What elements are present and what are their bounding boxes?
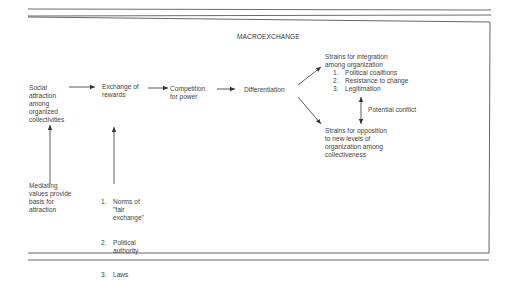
- item-number: 1.: [101, 198, 113, 222]
- strains-integration-heading: Strains for integration among organizati…: [325, 53, 388, 69]
- top-rule-2: [28, 15, 491, 16]
- node-mediating-values: Mediating values provide basis for attra…: [29, 182, 72, 214]
- list-item: 1. Norms of "fair exchange": [101, 198, 144, 222]
- node-strains-opposition: Strains for opposition to new levels of …: [325, 127, 387, 159]
- item-number: 2.: [101, 239, 113, 255]
- node-social-attraction: Social attraction among organized collec…: [29, 84, 64, 124]
- node-competition-for-power: Competition for power: [170, 85, 205, 101]
- diagram-title: MACROEXCHANGE: [237, 33, 300, 40]
- item-number: 1.: [333, 69, 345, 77]
- list-item: 2. Resistance to change: [333, 77, 408, 85]
- item-number: 3.: [101, 271, 113, 279]
- frame-box: [28, 17, 490, 253]
- item-text: Political authority: [113, 239, 138, 255]
- item-text: Resistance to change: [345, 77, 408, 85]
- node-differentiation: Differentiation: [244, 86, 285, 94]
- list-item: 1. Political coalitions: [333, 69, 408, 77]
- arrow-differentiation-to-integration: [298, 67, 321, 85]
- list-item: 2. Political authority: [101, 239, 144, 255]
- node-exchange-of-rewards: Exchange of rewards: [102, 83, 139, 99]
- item-text: Laws: [113, 271, 128, 279]
- top-rule-1: [28, 9, 491, 10]
- item-number: 2.: [333, 77, 345, 85]
- node-norms-list: 1. Norms of "fair exchange" 2. Political…: [101, 182, 144, 281]
- arrow-differentiation-to-opposition: [298, 97, 321, 124]
- list-item: 3. Legitimation: [333, 85, 408, 93]
- item-number: 3.: [333, 85, 345, 93]
- item-text: Norms of "fair exchange": [113, 198, 144, 222]
- strains-integration-list: 1. Political coalitions 2. Resistance to…: [333, 69, 408, 93]
- list-item: 3. Laws: [101, 271, 144, 279]
- item-text: Political coalitions: [345, 69, 397, 77]
- label-potential-conflict: Potential conflict: [368, 106, 416, 114]
- item-text: Legitimation: [345, 85, 381, 93]
